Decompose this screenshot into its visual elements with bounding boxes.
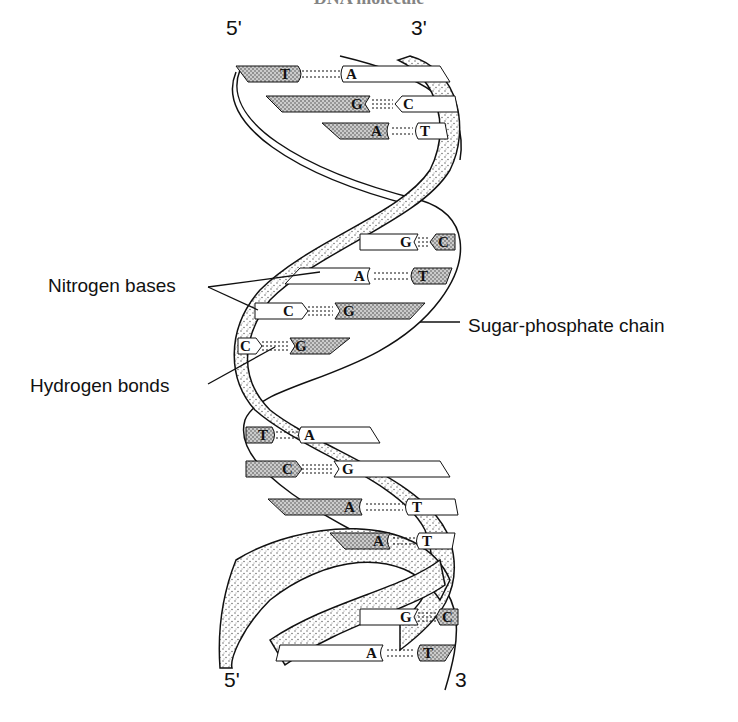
base-pair-1: T A (236, 66, 450, 82)
base-pair-9: C G (246, 461, 450, 477)
svg-text:G: G (342, 461, 354, 477)
svg-text:C: C (403, 96, 414, 112)
svg-text:T: T (280, 66, 290, 82)
svg-text:A: A (354, 268, 365, 284)
svg-text:C: C (282, 461, 293, 477)
base-pair-10: A T (268, 499, 458, 515)
base-pair-6: C G (255, 303, 425, 319)
svg-text:C: C (240, 338, 251, 354)
svg-text:G: G (295, 338, 307, 354)
base-pair-4: G C (360, 234, 455, 250)
base-pair-5: A T (285, 268, 452, 284)
svg-text:T: T (418, 268, 428, 284)
svg-text:C: C (438, 234, 449, 250)
base-pair-3: A T (322, 123, 448, 139)
svg-text:A: A (371, 123, 382, 139)
base-pair-7: C G (238, 338, 350, 354)
base-pair-8: T A (246, 427, 380, 443)
base-pair-13: A T (276, 645, 455, 661)
svg-text:A: A (344, 499, 355, 515)
leader-nitrogen-bases-2 (208, 287, 258, 310)
svg-text:A: A (304, 427, 315, 443)
svg-text:T: T (420, 123, 430, 139)
svg-text:G: G (351, 96, 363, 112)
svg-text:A: A (373, 533, 384, 549)
svg-text:C: C (283, 303, 294, 319)
base-pair-2: G C (266, 96, 458, 112)
svg-text:G: G (400, 609, 412, 625)
svg-text:G: G (343, 303, 355, 319)
svg-text:T: T (412, 499, 422, 515)
svg-text:C: C (442, 609, 453, 625)
front-strand (219, 56, 459, 668)
svg-text:G: G (400, 234, 412, 250)
svg-text:A: A (366, 645, 377, 661)
svg-text:T: T (258, 427, 268, 443)
base-pair-12: G C (360, 609, 458, 625)
svg-text:T: T (423, 645, 433, 661)
svg-text:A: A (346, 66, 357, 82)
svg-text:T: T (422, 533, 432, 549)
dna-helix-illustration: T A G C A T G (0, 0, 738, 722)
